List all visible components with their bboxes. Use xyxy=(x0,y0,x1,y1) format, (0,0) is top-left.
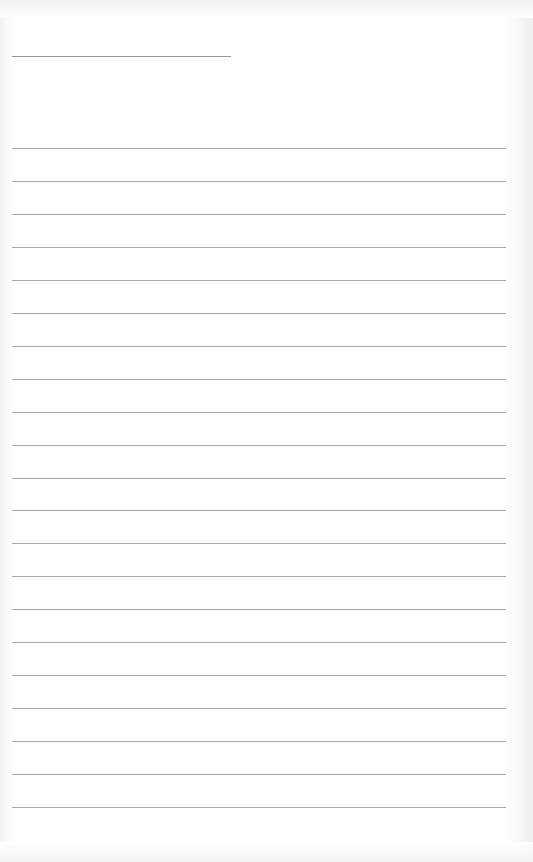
ruled-line xyxy=(12,576,506,577)
ruled-line xyxy=(12,642,506,643)
ruled-line xyxy=(12,741,506,742)
ruled-line xyxy=(12,807,506,808)
bottom-edge-shadow xyxy=(0,842,533,862)
ruled-line xyxy=(12,412,506,413)
ruled-line xyxy=(12,346,506,347)
ruled-line xyxy=(12,609,506,610)
ruled-line xyxy=(12,774,506,775)
ruled-line xyxy=(12,675,506,676)
ruled-line xyxy=(12,313,506,314)
notebook-page xyxy=(0,0,533,862)
title-underline xyxy=(12,56,231,57)
ruled-line xyxy=(12,280,506,281)
ruled-line xyxy=(12,478,506,479)
ruled-line xyxy=(12,148,506,149)
ruled-line xyxy=(12,247,506,248)
ruled-line xyxy=(12,379,506,380)
ruled-line xyxy=(12,214,506,215)
ruled-line xyxy=(12,510,506,511)
ruled-line xyxy=(12,708,506,709)
ruled-line xyxy=(12,543,506,544)
ruled-line xyxy=(12,445,506,446)
top-edge-shadow xyxy=(0,0,533,18)
ruled-line xyxy=(12,181,506,182)
